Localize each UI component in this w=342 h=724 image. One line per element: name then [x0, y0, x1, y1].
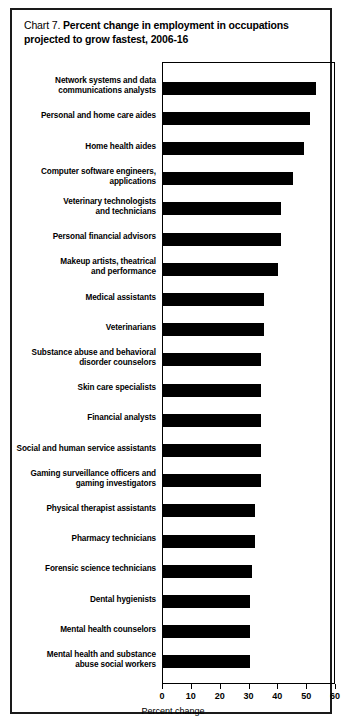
bar-row — [163, 315, 334, 345]
category-label: Mental health counselors — [12, 625, 156, 635]
category-label: Physical therapist assistants — [12, 504, 156, 514]
bar-row — [163, 647, 334, 677]
x-axis-label: Percent change — [12, 706, 334, 716]
category-label-line: and technicians — [12, 207, 156, 217]
x-tick-label: 10 — [186, 691, 196, 701]
x-tick — [191, 684, 192, 689]
bar — [163, 233, 281, 246]
category-label-line: disorder counselors — [12, 358, 156, 368]
category-label: Financial analysts — [12, 413, 156, 423]
category-label-line: Financial analysts — [12, 413, 156, 423]
bar — [163, 474, 261, 487]
chart-title-text: Percent change in employment in occupati… — [24, 19, 289, 45]
bar-row — [163, 617, 334, 647]
bar-row — [163, 345, 334, 375]
bar-row — [163, 587, 334, 617]
category-label-line: Dental hygienists — [12, 595, 156, 605]
bar-row — [163, 556, 334, 586]
bar-row — [163, 466, 334, 496]
category-label-line: Substance abuse and behavioral — [12, 348, 156, 358]
category-label-line: Network systems and data — [12, 76, 156, 86]
category-label: Skin care specialists — [12, 383, 156, 393]
category-label: Personal and home care aides — [12, 111, 156, 121]
bar — [163, 293, 264, 306]
category-label: Substance abuse and behavioraldisorder c… — [12, 348, 156, 368]
plot-area — [162, 62, 335, 684]
bar-row — [163, 194, 334, 224]
bar-row — [163, 134, 334, 164]
bar-row — [163, 224, 334, 254]
x-tick-label: 0 — [159, 691, 164, 701]
category-label-line: Mental health and substance — [12, 650, 156, 660]
category-label-line: Personal and home care aides — [12, 111, 156, 121]
category-label: Dental hygienists — [12, 595, 156, 605]
bar — [163, 353, 261, 366]
bar — [163, 565, 252, 578]
x-tick — [306, 684, 307, 689]
bar — [163, 504, 255, 517]
bar-row — [163, 405, 334, 435]
chart-number: Chart 7. — [24, 19, 60, 31]
category-label-line: Makeup artists, theatrical — [12, 257, 156, 267]
bar — [163, 414, 261, 427]
bar — [163, 172, 293, 185]
x-tick-label: 30 — [243, 691, 253, 701]
bar — [163, 655, 250, 668]
bar-row — [163, 164, 334, 194]
category-label-line: Home health aides — [12, 142, 156, 152]
category-label-line: Skin care specialists — [12, 383, 156, 393]
category-label: Personal financial advisors — [12, 232, 156, 242]
bar-row — [163, 375, 334, 405]
category-label-line: Social and human service assistants — [12, 444, 156, 454]
category-label: Computer software engineers,applications — [12, 167, 156, 187]
category-label-line: Physical therapist assistants — [12, 504, 156, 514]
bar — [163, 82, 316, 95]
x-axis-tick-labels: 0102030405060 — [162, 691, 342, 705]
category-label-line: and performance — [12, 267, 156, 277]
category-labels: Network systems and datacommunications a… — [12, 62, 160, 684]
bar-row — [163, 496, 334, 526]
chart-title: Chart 7. Percent change in employment in… — [24, 18, 314, 46]
category-label-line: applications — [12, 177, 156, 187]
category-label-line: Personal financial advisors — [12, 232, 156, 242]
bar-row — [163, 436, 334, 466]
category-label: Medical assistants — [12, 293, 156, 303]
x-tick — [335, 684, 336, 689]
category-label: Home health aides — [12, 142, 156, 152]
x-tick — [277, 684, 278, 689]
category-label: Gaming surveillance officers andgaming i… — [12, 469, 156, 489]
category-label-line: Medical assistants — [12, 293, 156, 303]
category-label: Social and human service assistants — [12, 444, 156, 454]
chart-figure: Chart 7. Percent change in employment in… — [10, 8, 332, 714]
category-label: Makeup artists, theatricaland performanc… — [12, 257, 156, 277]
bar — [163, 444, 261, 457]
category-label-line: Computer software engineers, — [12, 167, 156, 177]
category-label-line: Veterinarians — [12, 323, 156, 333]
bar-row — [163, 73, 334, 103]
category-label: Veterinarians — [12, 323, 156, 333]
category-label: Pharmacy technicians — [12, 534, 156, 544]
bar-row — [163, 103, 334, 133]
x-tick — [249, 684, 250, 689]
category-label-line: Pharmacy technicians — [12, 534, 156, 544]
x-tick-label: 20 — [215, 691, 225, 701]
bar — [163, 112, 310, 125]
category-label-line: Forensic science technicians — [12, 564, 156, 574]
bar — [163, 263, 278, 276]
category-label: Mental health and substanceabuse social … — [12, 650, 156, 670]
bar — [163, 384, 261, 397]
bar — [163, 595, 250, 608]
x-tick — [220, 684, 221, 689]
x-tick — [162, 684, 163, 689]
bar — [163, 625, 250, 638]
category-label-line: communications analysts — [12, 86, 156, 96]
category-label-line: Veterinary technologists — [12, 197, 156, 207]
category-label-line: Gaming surveillance officers and — [12, 469, 156, 479]
category-label-line: abuse social workers — [12, 660, 156, 670]
category-label: Veterinary technologistsand technicians — [12, 197, 156, 217]
category-label-line: Mental health counselors — [12, 625, 156, 635]
category-label: Network systems and datacommunications a… — [12, 76, 156, 96]
category-label-line: gaming investigators — [12, 479, 156, 489]
bar-row — [163, 254, 334, 284]
x-axis-ticks — [162, 684, 335, 690]
